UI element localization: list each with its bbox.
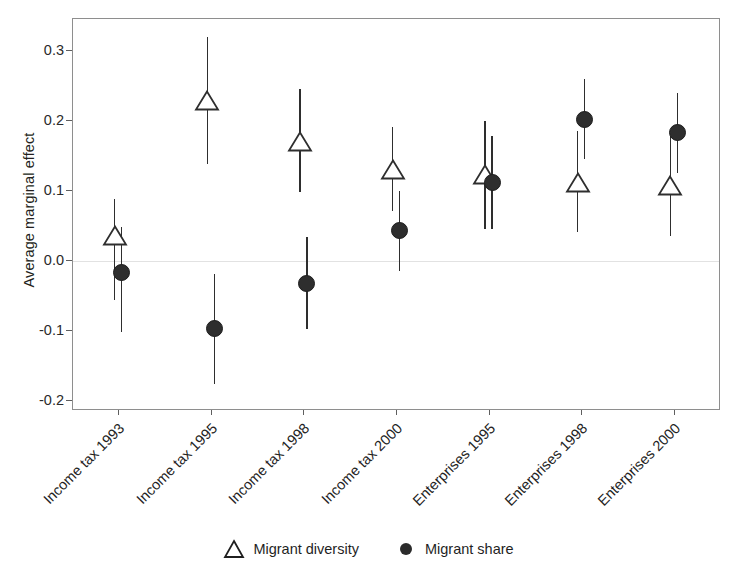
- y-axis-tick-label: -0.1: [20, 322, 64, 338]
- plot-panel: [72, 18, 720, 410]
- x-axis-tick-label: Enterprises 1998: [502, 420, 591, 509]
- y-axis-tick-label: 0.3: [20, 42, 64, 58]
- filled-circle-icon: [395, 538, 417, 560]
- x-axis-tick-label: Enterprises 2000: [594, 420, 683, 509]
- x-axis-tick-mark: [211, 410, 212, 415]
- x-axis-tick-mark: [396, 410, 397, 415]
- legend-label: Migrant diversity: [253, 541, 359, 557]
- data-point-marker-circle: [484, 174, 501, 191]
- x-axis-tick-label: Income tax 1998: [226, 420, 313, 507]
- data-point-marker-circle: [669, 124, 686, 141]
- error-bar: [114, 199, 115, 301]
- x-axis-tick-label: Enterprises 1995: [409, 420, 498, 509]
- y-axis-tick-label: -0.2: [20, 392, 64, 408]
- y-axis-tick-label: 0.1: [20, 182, 64, 198]
- x-axis-tick-mark: [489, 410, 490, 415]
- x-axis-tick-mark: [118, 410, 119, 415]
- legend-entry: Migrant diversity: [223, 538, 359, 560]
- data-point-marker-circle: [576, 111, 593, 128]
- legend-entry: Migrant share: [395, 538, 514, 560]
- y-axis-tick-label: 0.0: [20, 252, 64, 268]
- x-axis-tick-label: Income tax 1995: [133, 420, 220, 507]
- chart-legend: Migrant diversityMigrant share: [0, 538, 737, 560]
- chart-figure: Average marginal effect 0.30.20.10.0-0.1…: [0, 0, 737, 578]
- x-axis-tick-label: Income tax 2000: [318, 420, 405, 507]
- x-axis-tick-mark: [303, 410, 304, 415]
- legend-label: Migrant share: [425, 541, 514, 557]
- x-axis-tick-mark: [581, 410, 582, 415]
- open-triangle-icon: [223, 538, 245, 560]
- data-point-marker-circle: [391, 222, 408, 239]
- plot-area: [73, 19, 719, 409]
- x-axis-tick-label: Income tax 1993: [40, 420, 127, 507]
- legend-dot-shape: [400, 543, 412, 555]
- y-axis-tick-label: 0.2: [20, 112, 64, 128]
- x-axis-tick-mark: [674, 410, 675, 415]
- y-axis-title: Average marginal effect: [14, 0, 44, 420]
- zero-reference-line: [73, 261, 719, 262]
